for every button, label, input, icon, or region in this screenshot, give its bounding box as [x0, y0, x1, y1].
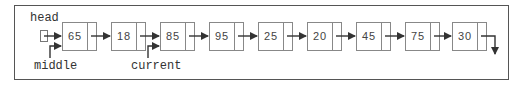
current-arrow-icon: [148, 46, 159, 58]
null-arrow-icon: [481, 36, 495, 54]
arrows-layer: [0, 0, 523, 87]
middle-arrow-icon: [50, 46, 61, 58]
